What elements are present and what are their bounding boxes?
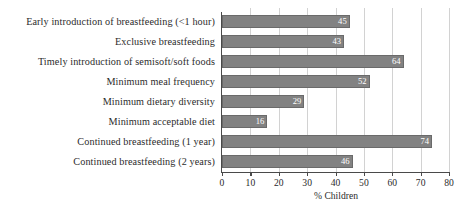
category-label: Continued breastfeeding (2 years) [73,152,215,172]
bar-value-label: 74 [222,135,432,148]
category-label: Minimum acceptable diet [109,112,215,132]
bar-row: 64 [222,52,449,72]
plot-area: 4543645229167446 [222,8,449,172]
bar-value-label: 45 [222,15,350,28]
bar-value-label: 52 [222,75,370,88]
x-axis-title: % Children [222,190,450,201]
x-tick [279,172,280,176]
category-axis-labels: Early introduction of breastfeeding (<1 … [0,12,218,172]
gridline [449,8,450,172]
bar-row: 16 [222,112,449,132]
x-tick-label: 40 [321,177,351,188]
x-tick [449,172,450,176]
x-tick-label: 0 [207,177,237,188]
bar-value-label: 64 [222,55,404,68]
x-tick-label: 70 [406,177,436,188]
bar-row: 45 [222,12,449,32]
bar-row: 52 [222,72,449,92]
bar-value-label: 29 [222,95,304,108]
x-tick [364,172,365,176]
bar-value-label: 46 [222,155,353,168]
x-tick [222,172,223,176]
bar-row: 29 [222,92,449,112]
category-label: Minimum meal frequency [106,72,215,92]
bar-value-label: 43 [222,35,344,48]
bar-chart: Early introduction of breastfeeding (<1 … [0,0,469,208]
category-label: Early introduction of breastfeeding (<1 … [26,12,215,32]
x-tick-label: 10 [235,177,265,188]
category-label: Continued breastfeeding (1 year) [77,132,215,152]
x-tick-label: 80 [434,177,464,188]
bar-series: 4543645229167446 [222,12,449,172]
x-tick [336,172,337,176]
x-tick-label: 50 [349,177,379,188]
x-tick-label: 60 [377,177,407,188]
x-tick-label: 30 [292,177,322,188]
x-tick [307,172,308,176]
bar-row: 74 [222,132,449,152]
x-tick-label: 20 [264,177,294,188]
x-tick [250,172,251,176]
bar-row: 46 [222,152,449,172]
category-label: Minimum dietary diversity [103,92,215,112]
x-tick [421,172,422,176]
bar-row: 43 [222,32,449,52]
category-label: Exclusive breastfeeding [115,32,215,52]
x-tick [392,172,393,176]
category-label: Timely introduction of semisoft/soft foo… [38,52,215,72]
bar-value-label: 16 [222,115,267,128]
